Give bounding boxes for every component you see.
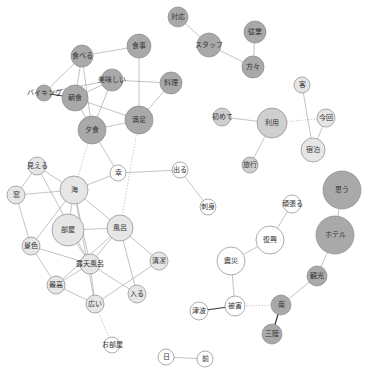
node-hajimete[interactable]: 初めて xyxy=(212,108,233,126)
node-label: 対応 xyxy=(171,12,185,21)
node-label: 従業 xyxy=(248,27,262,36)
node-label: お部屋 xyxy=(102,340,123,349)
node-label: 前 xyxy=(202,354,209,363)
node-label: 頑張る xyxy=(282,200,303,208)
node-label: 観光 xyxy=(310,271,324,280)
node-label: 震災 xyxy=(224,257,238,265)
node-tsunami[interactable]: 津波 xyxy=(190,302,208,320)
edge-sachi-deru xyxy=(118,170,180,173)
node-rotenburo[interactable]: 露天風呂 xyxy=(76,254,104,274)
node-shinsai[interactable]: 震災 xyxy=(217,247,245,275)
node-staff[interactable]: スタッフ xyxy=(195,33,223,57)
node-ganbaru[interactable]: 頑張る xyxy=(282,195,303,213)
node-sanriku[interactable]: 三陸 xyxy=(262,324,282,344)
node-hiroi[interactable]: 広い xyxy=(86,295,104,313)
node-seiketsu[interactable]: 清潔 xyxy=(150,252,168,270)
node-label: 見える xyxy=(27,162,48,170)
node-fukko[interactable]: 復興 xyxy=(256,226,284,254)
node-label: 津波 xyxy=(192,306,206,315)
node-minami[interactable]: 南 xyxy=(271,295,291,315)
node-label: 海 xyxy=(71,185,78,194)
node-label: 風呂 xyxy=(113,224,127,232)
node-label: 広い xyxy=(88,299,102,308)
node-label: ホテル xyxy=(325,231,346,239)
node-label: 露天風呂 xyxy=(76,260,104,268)
node-label: 刺身 xyxy=(201,202,215,211)
node-label: 入る xyxy=(130,290,144,298)
nodes-layer: 対応スタッフ従業方々食べる食事料理美味しいバイキング朝食満足夕食利用初めて客今回… xyxy=(7,7,361,367)
node-yushoku[interactable]: 夕食 xyxy=(78,116,106,144)
node-kanko[interactable]: 観光 xyxy=(307,266,327,286)
node-furo[interactable]: 風呂 xyxy=(107,215,133,241)
node-viking[interactable]: バイキング xyxy=(27,85,62,101)
edge-umi-hiroi xyxy=(74,190,95,304)
node-ryoko[interactable]: 旅行 xyxy=(242,157,258,173)
node-label: 被害 xyxy=(228,301,242,310)
node-label: スタッフ xyxy=(195,40,223,49)
node-label: 日 xyxy=(163,353,170,361)
node-label: 部屋 xyxy=(61,225,75,234)
node-keshiki[interactable]: 景色 xyxy=(22,237,40,255)
node-katagata[interactable]: 方々 xyxy=(242,56,264,78)
node-label: 今回 xyxy=(319,113,333,122)
node-label: 客 xyxy=(299,80,306,89)
node-mado[interactable]: 窓 xyxy=(7,186,25,204)
edge-seiketsu-hiroi xyxy=(95,261,159,304)
node-label: 朝食 xyxy=(68,93,82,102)
node-label: バイキング xyxy=(27,88,62,97)
node-hi[interactable]: 日 xyxy=(158,349,174,365)
node-label: 三陸 xyxy=(265,329,279,338)
node-manzoku[interactable]: 満足 xyxy=(125,106,153,134)
node-label: 夕食 xyxy=(85,125,99,134)
node-kyaku[interactable]: 客 xyxy=(294,77,310,93)
node-label: 出る xyxy=(173,165,187,174)
node-heya[interactable]: 部屋 xyxy=(52,214,84,246)
node-deru[interactable]: 出る xyxy=(172,162,188,178)
node-shokuji[interactable]: 食事 xyxy=(127,34,151,58)
node-konkai[interactable]: 今回 xyxy=(317,109,335,127)
node-mieru[interactable]: 見える xyxy=(27,157,48,175)
node-taiou[interactable]: 対応 xyxy=(168,7,188,27)
node-shukuhaku[interactable]: 宿泊 xyxy=(301,138,325,162)
node-label: 復興 xyxy=(263,235,277,244)
node-omou[interactable]: 思う xyxy=(323,171,361,209)
node-label: 初めて xyxy=(212,112,233,121)
node-label: 食事 xyxy=(132,41,146,50)
node-hairu[interactable]: 入る xyxy=(128,285,146,303)
node-jugyo[interactable]: 従業 xyxy=(244,21,266,43)
node-umi[interactable]: 海 xyxy=(60,176,88,204)
node-label: 利用 xyxy=(265,118,279,127)
node-hotel[interactable]: ホテル xyxy=(316,216,354,254)
node-label: 幸 xyxy=(115,169,122,177)
node-oishii[interactable]: 美味しい xyxy=(98,69,126,91)
node-label: 清潔 xyxy=(152,256,166,265)
node-label: 料理 xyxy=(164,78,178,87)
node-label: 宿泊 xyxy=(306,145,320,154)
node-saiko[interactable]: 最高 xyxy=(47,276,65,294)
node-oheya[interactable]: お部屋 xyxy=(102,337,123,353)
node-label: 窓 xyxy=(13,190,20,199)
node-label: 食べる xyxy=(72,51,93,60)
node-sachi[interactable]: 幸 xyxy=(110,165,126,181)
node-label: 方々 xyxy=(246,62,260,71)
node-choshoku[interactable]: 朝食 xyxy=(62,85,88,111)
node-label: 美味しい xyxy=(98,75,126,84)
node-riyo[interactable]: 利用 xyxy=(257,108,287,138)
node-label: 最高 xyxy=(49,280,63,289)
node-ryori[interactable]: 料理 xyxy=(160,72,182,94)
node-higai[interactable]: 被害 xyxy=(225,296,245,316)
node-label: 思う xyxy=(335,186,349,194)
node-label: 満足 xyxy=(132,116,146,124)
node-mae[interactable]: 前 xyxy=(197,351,213,367)
co-occurrence-network: 対応スタッフ従業方々食べる食事料理美味しいバイキング朝食満足夕食利用初めて客今回… xyxy=(0,0,373,375)
node-label: 旅行 xyxy=(243,160,257,169)
node-sashimi[interactable]: 刺身 xyxy=(200,199,216,215)
node-label: 南 xyxy=(278,300,285,309)
node-taberu[interactable]: 食べる xyxy=(71,45,93,67)
node-label: 景色 xyxy=(24,241,38,250)
